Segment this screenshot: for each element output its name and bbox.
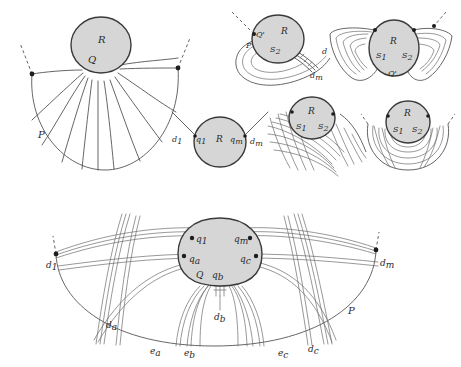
vertex-dot-qc bbox=[254, 254, 258, 258]
figure-canvas: R Q P R Q' S2 P d dm bbox=[0, 0, 461, 367]
label-P: P bbox=[245, 41, 252, 50]
label-R: R bbox=[389, 36, 397, 46]
label-d1: d1 bbox=[172, 135, 182, 146]
label-Q: Q bbox=[196, 270, 204, 280]
endpoint-dot-left bbox=[30, 72, 35, 77]
region-blob-R bbox=[369, 20, 419, 76]
label-da: da bbox=[106, 320, 117, 332]
label-d: d bbox=[322, 47, 327, 56]
vertex-dot-qa bbox=[182, 254, 186, 258]
label-P: P bbox=[37, 129, 45, 140]
label-R: R bbox=[215, 134, 223, 144]
endpoint-dot-right bbox=[412, 28, 416, 32]
label-R: R bbox=[403, 108, 411, 118]
panel-middle-right: R S1 S2 bbox=[360, 100, 458, 182]
endpoint-dot-left bbox=[373, 28, 377, 32]
panel-middle-center: R S1 S2 bbox=[266, 96, 371, 180]
label-Q-prime: Q' bbox=[388, 69, 397, 78]
vertex-dot-qm bbox=[248, 236, 252, 240]
label-dm: dm bbox=[310, 71, 323, 82]
vertex-dot-left bbox=[386, 114, 390, 118]
label-dm: dm bbox=[380, 258, 394, 270]
panel-top-middle: R Q' S2 P d dm bbox=[226, 6, 336, 98]
label-ec: ec bbox=[278, 348, 288, 360]
vertex-dot-q1 bbox=[190, 236, 194, 240]
endpoint-dot-d1 bbox=[54, 252, 59, 257]
label-dc: dc bbox=[308, 344, 319, 356]
label-Q: Q bbox=[88, 54, 96, 65]
panel-top-right: R S1 S2 Q' bbox=[330, 4, 458, 96]
label-P: P bbox=[347, 305, 355, 316]
vertex-dot-left bbox=[290, 110, 294, 114]
vertex-dot-left bbox=[193, 134, 197, 138]
vertex-dot-right bbox=[243, 134, 247, 138]
panel-middle-left: d1 q1 R qm dm bbox=[168, 104, 273, 176]
label-dm: dm bbox=[250, 137, 263, 148]
endpoint-dot-right bbox=[176, 66, 181, 71]
label-db: db bbox=[214, 312, 226, 324]
endpoint-dot bbox=[252, 32, 256, 36]
label-d1: d1 bbox=[46, 260, 58, 272]
label-ea: ea bbox=[150, 346, 161, 358]
label-R: R bbox=[97, 34, 106, 45]
panel-bottom: d1 dm q1 qm qa qc Q qb da db ea eb bbox=[44, 204, 454, 364]
label-R: R bbox=[307, 106, 315, 116]
endpoint-dot-dm bbox=[374, 248, 379, 253]
vertex-dot-right bbox=[331, 112, 335, 116]
label-Q-prime: Q' bbox=[256, 30, 265, 39]
label-R: R bbox=[280, 26, 288, 36]
region-blob-R bbox=[71, 17, 131, 73]
endpoint-dot-dashed bbox=[432, 24, 436, 28]
label-eb: eb bbox=[184, 348, 195, 360]
vertex-dot-right bbox=[426, 114, 430, 118]
